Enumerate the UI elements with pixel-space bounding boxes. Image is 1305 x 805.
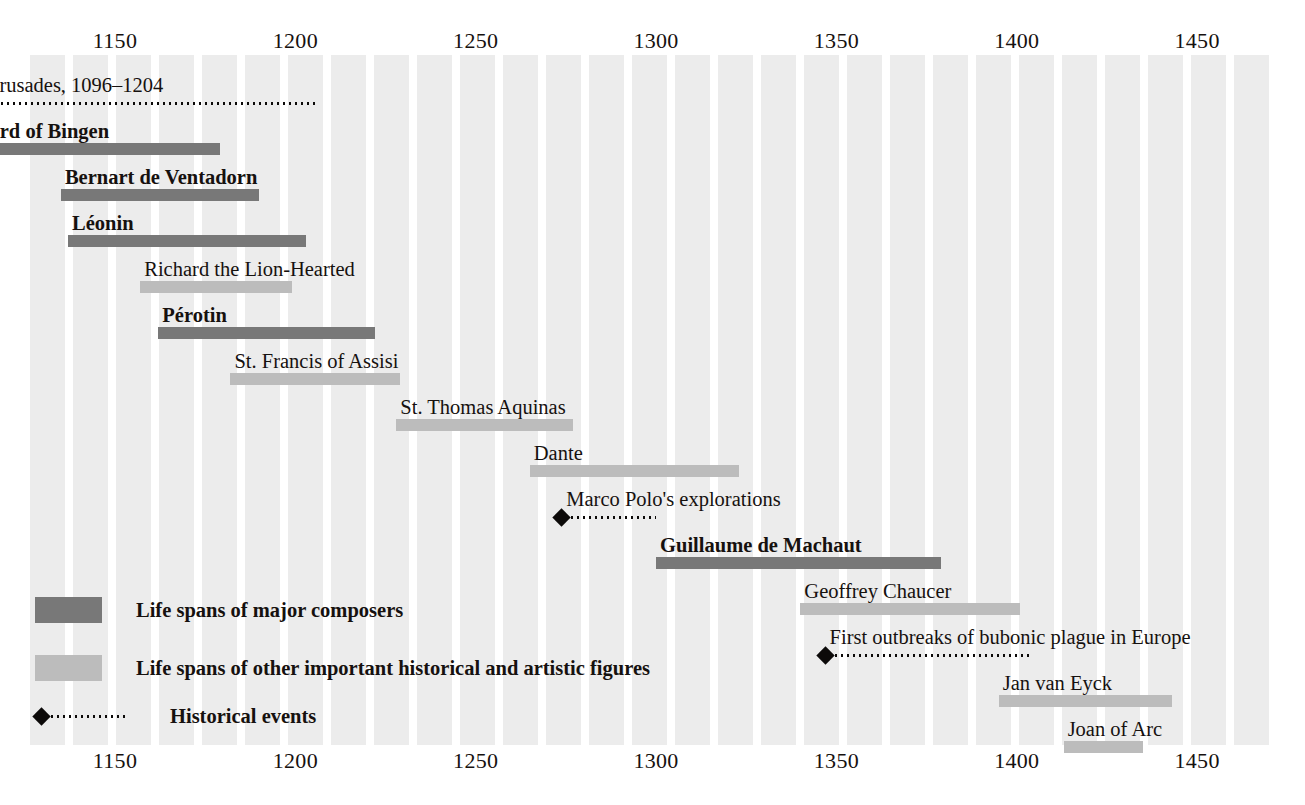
row-label: Joan of Arc	[1068, 719, 1163, 740]
timeline-row: Richard the Lion-Hearted	[0, 247, 1305, 293]
timeline-row: Age of Crusades, 1096–1204	[0, 63, 1305, 109]
lifespan-bar-composer	[68, 235, 306, 247]
legend-color-swatch	[35, 655, 102, 681]
dotted-line	[833, 654, 1031, 657]
lifespan-bar-figure	[530, 465, 739, 477]
timeline-chart: 1150120012501300135014001450 11501200125…	[0, 0, 1305, 805]
timeline-row: St. Francis of Assisi	[0, 339, 1305, 385]
axis-tick-top-1450: 1450	[1174, 28, 1219, 54]
legend-color-swatch	[35, 597, 102, 623]
row-label: Guillaume de Machaut	[660, 535, 862, 556]
historical-event-marker	[555, 510, 656, 524]
row-label: Marco Polo's explorations	[566, 489, 780, 510]
axis-tick-top-1350: 1350	[814, 28, 859, 54]
axis-tick-top-1200: 1200	[273, 28, 318, 54]
lifespan-bar-figure	[1064, 741, 1143, 753]
dotted-line	[569, 516, 656, 519]
row-label: Pérotin	[162, 305, 227, 326]
lifespan-bar-figure	[230, 373, 400, 385]
row-label: Dante	[534, 443, 583, 464]
row-label: Age of Crusades, 1096–1204	[0, 75, 163, 96]
axis-tick-top-1300: 1300	[633, 28, 678, 54]
row-label: Geoffrey Chaucer	[804, 581, 951, 602]
row-label: Léonin	[72, 213, 134, 234]
axis-tick-top-1400: 1400	[994, 28, 1039, 54]
axis-tick-top-1150: 1150	[93, 28, 137, 54]
row-label: Bernart de Ventadorn	[65, 167, 257, 188]
lifespan-bar-composer	[61, 189, 259, 201]
legend-item-event: Historical events	[35, 705, 316, 728]
row-label: Jan van Eyck	[1003, 673, 1112, 694]
legend-item-composer: Life spans of major composers	[35, 597, 403, 623]
timeline-row: St. Thomas Aquinas	[0, 385, 1305, 431]
axis-tick-top-1250: 1250	[453, 28, 498, 54]
timeline-row: Bernart de Ventadorn	[0, 155, 1305, 201]
axis-top: 1150120012501300135014001450	[0, 28, 1305, 56]
legend-event-swatch	[35, 710, 136, 723]
lifespan-bar-composer	[0, 143, 220, 155]
timeline-row: Marco Polo's explorations	[0, 477, 1305, 523]
timeline-row: Dante	[0, 431, 1305, 477]
lifespan-bar-figure	[800, 603, 1020, 615]
historical-event-marker	[0, 96, 317, 110]
dotted-line	[0, 102, 317, 105]
dotted-line	[49, 715, 127, 718]
legend-label: Life spans of major composers	[136, 599, 403, 622]
lifespan-bar-figure	[140, 281, 291, 293]
lifespan-bar-figure	[999, 695, 1172, 707]
legend-label: Historical events	[170, 705, 316, 728]
timeline-row: Léonin	[0, 201, 1305, 247]
lifespan-bar-composer	[656, 557, 941, 569]
row-label: St. Thomas Aquinas	[400, 397, 565, 418]
lifespan-bar-composer	[158, 327, 374, 339]
lifespan-bar-figure	[396, 419, 573, 431]
timeline-row: Hildegard of Bingen	[0, 109, 1305, 155]
timeline-row: Guillaume de Machaut	[0, 523, 1305, 569]
diamond-icon	[32, 707, 50, 725]
row-label: Richard the Lion-Hearted	[144, 259, 355, 280]
legend-label: Life spans of other important historical…	[136, 657, 650, 680]
legend-item-figure: Life spans of other important historical…	[35, 655, 650, 681]
historical-event-marker	[819, 648, 1031, 662]
timeline-row: Pérotin	[0, 293, 1305, 339]
row-label: St. Francis of Assisi	[234, 351, 398, 372]
row-label: First outbreaks of bubonic plague in Eur…	[830, 627, 1191, 648]
row-label: Hildegard of Bingen	[0, 121, 109, 142]
